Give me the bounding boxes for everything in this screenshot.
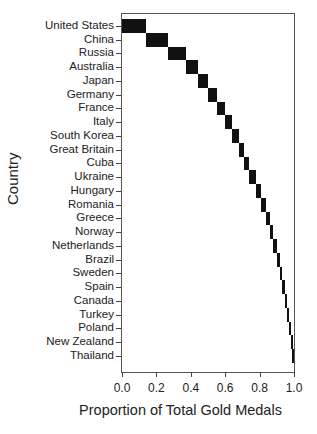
category-label: Japan <box>83 74 114 87</box>
category-tick <box>116 342 121 343</box>
x-tick-label: 0.4 <box>176 381 206 395</box>
x-tick <box>156 372 157 377</box>
bar <box>225 115 232 129</box>
category-tick <box>116 177 121 178</box>
category-label: United States <box>45 19 114 32</box>
x-tick <box>191 372 192 377</box>
category-tick <box>116 122 121 123</box>
category-label: Greece <box>76 211 114 224</box>
category-label: New Zealand <box>46 335 114 348</box>
bar <box>287 308 289 322</box>
bar <box>261 198 266 212</box>
plot-area <box>121 13 295 373</box>
category-label: Spain <box>85 280 114 293</box>
category-label: France <box>78 101 114 114</box>
category-label: Germany <box>67 88 114 101</box>
bar <box>122 19 146 33</box>
category-tick <box>116 26 121 27</box>
category-label: Hungary <box>71 184 114 197</box>
category-tick <box>116 163 121 164</box>
bar <box>256 184 261 198</box>
x-tick <box>122 372 123 377</box>
category-tick <box>116 315 121 316</box>
x-tick-label: 0.2 <box>141 381 171 395</box>
bar <box>270 225 273 239</box>
category-label: Brazil <box>85 253 114 266</box>
category-tick <box>116 246 121 247</box>
category-label: Great Britain <box>49 143 114 156</box>
category-tick <box>116 260 121 261</box>
x-tick-label: 0.0 <box>107 381 137 395</box>
x-tick <box>294 372 295 377</box>
category-label: China <box>84 33 114 46</box>
category-label: Thailand <box>70 349 114 362</box>
category-label: Netherlands <box>52 239 114 252</box>
bar <box>168 47 185 61</box>
category-tick <box>116 136 121 137</box>
bar <box>280 267 282 281</box>
x-tick-label: 0.6 <box>210 381 240 395</box>
bar <box>285 294 287 308</box>
y-axis-title: Country <box>4 125 21 205</box>
bar <box>273 239 276 253</box>
bar <box>208 88 217 102</box>
category-tick <box>116 191 121 192</box>
category-label: Cuba <box>87 156 115 169</box>
category-tick <box>116 205 121 206</box>
category-tick <box>116 287 121 288</box>
bar <box>244 157 249 171</box>
bar <box>232 129 239 143</box>
category-label: Canada <box>74 294 114 307</box>
category-tick <box>116 301 121 302</box>
category-tick <box>116 53 121 54</box>
bar <box>292 349 294 363</box>
category-tick <box>116 95 121 96</box>
cumulative-gold-medal-chart: United StatesChinaRussiaAustraliaJapanGe… <box>0 0 317 434</box>
bar <box>239 143 244 157</box>
x-tick-label: 0.8 <box>245 381 275 395</box>
category-tick <box>116 81 121 82</box>
category-label: Italy <box>93 115 114 128</box>
category-tick <box>116 67 121 68</box>
category-tick <box>116 232 121 233</box>
bar <box>282 280 285 294</box>
bar <box>217 102 226 116</box>
bar <box>277 253 280 267</box>
category-tick <box>116 356 121 357</box>
category-label: Turkey <box>79 308 114 321</box>
bar <box>289 322 291 336</box>
x-tick-label: 1.0 <box>279 381 309 395</box>
category-label: Ukraine <box>74 170 114 183</box>
x-tick <box>260 372 261 377</box>
category-label: Poland <box>78 321 114 334</box>
category-label: Russia <box>79 46 114 59</box>
category-tick <box>116 273 121 274</box>
category-tick <box>116 108 121 109</box>
category-label: Romania <box>68 198 114 211</box>
category-tick <box>116 40 121 41</box>
x-tick <box>225 372 226 377</box>
bar <box>198 74 208 88</box>
category-label: Australia <box>69 60 114 73</box>
bar <box>249 170 256 184</box>
category-tick <box>116 328 121 329</box>
x-axis-title: Proportion of Total Gold Medals <box>0 402 317 418</box>
bar <box>186 60 198 74</box>
category-label: Sweden <box>72 266 114 279</box>
category-label: Norway <box>75 225 114 238</box>
bar <box>146 33 168 47</box>
category-tick <box>116 150 121 151</box>
bar <box>291 335 293 349</box>
bar <box>266 212 269 226</box>
category-label: South Korea <box>50 129 114 142</box>
category-tick <box>116 218 121 219</box>
